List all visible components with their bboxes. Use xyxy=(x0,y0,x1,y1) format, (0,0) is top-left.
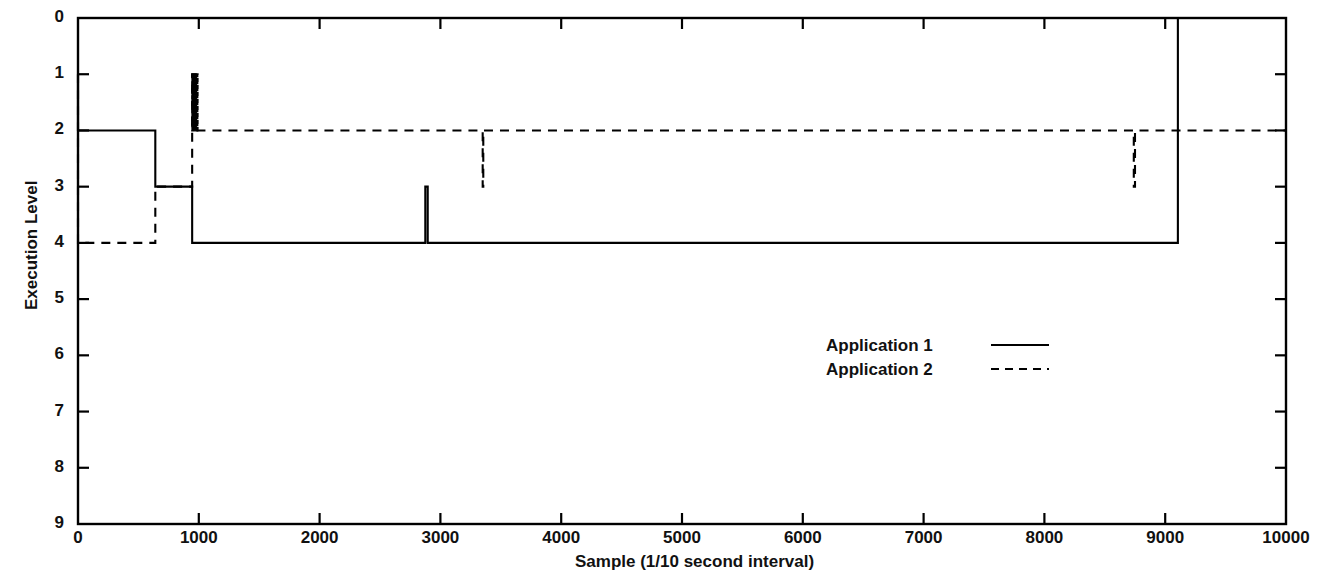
x-tick-label: 8000 xyxy=(1025,528,1063,548)
x-tick-label: 0 xyxy=(73,528,82,548)
y-tick-label: 7 xyxy=(55,401,64,421)
plot-border xyxy=(78,18,1286,524)
y-tick-label: 3 xyxy=(55,176,64,196)
y-tick-label: 8 xyxy=(55,457,64,477)
chart-plot-area xyxy=(0,0,1321,586)
x-tick-label: 1000 xyxy=(180,528,218,548)
y-axis-title: Execution Level xyxy=(22,181,42,310)
x-tick-label: 3000 xyxy=(421,528,459,548)
series-line-2 xyxy=(78,74,1286,243)
y-tick-label: 2 xyxy=(55,119,64,139)
y-tick-label: 4 xyxy=(55,232,64,252)
chart-figure: 0100020003000400050006000700080009000100… xyxy=(0,0,1321,586)
x-tick-label: 5000 xyxy=(663,528,701,548)
y-tick-label: 9 xyxy=(55,513,64,533)
x-tick-label: 4000 xyxy=(542,528,580,548)
y-tick-label: 1 xyxy=(55,63,64,83)
series-oscillation-2 xyxy=(192,74,197,130)
y-tick-label: 5 xyxy=(55,288,64,308)
y-tick-label: 0 xyxy=(55,7,64,27)
legend-entry-label-0: Application 1 xyxy=(826,336,933,356)
x-tick-label: 6000 xyxy=(784,528,822,548)
x-axis-ticks xyxy=(199,18,1165,524)
legend-sample-lines xyxy=(991,345,1049,369)
x-tick-label: 7000 xyxy=(905,528,943,548)
x-axis-title: Sample (1/10 second interval) xyxy=(575,552,814,572)
data-series-group xyxy=(78,18,1286,243)
x-tick-label: 2000 xyxy=(301,528,339,548)
x-tick-label: 9000 xyxy=(1146,528,1184,548)
x-tick-label: 10000 xyxy=(1262,528,1309,548)
legend-entry-label-1: Application 2 xyxy=(826,360,933,380)
plot-frame xyxy=(78,18,1286,524)
y-tick-label: 6 xyxy=(55,344,64,364)
y-axis-ticks xyxy=(78,74,1286,468)
